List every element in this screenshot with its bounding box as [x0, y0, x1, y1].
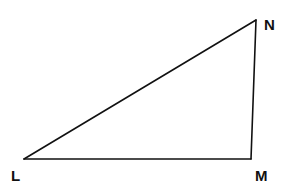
triangle-diagram: N L M: [0, 0, 290, 195]
vertex-label-n: N: [264, 16, 275, 33]
side-mn: [251, 20, 256, 159]
vertex-label-l: L: [11, 167, 20, 184]
side-nl: [24, 20, 256, 159]
vertex-label-m: M: [255, 167, 268, 184]
